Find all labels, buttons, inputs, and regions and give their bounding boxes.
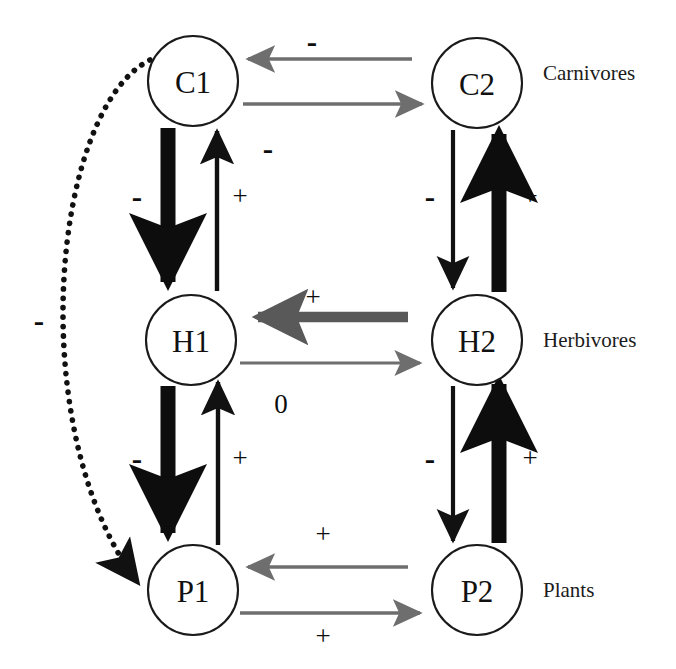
- sign-label-h2-h1: +: [305, 282, 320, 312]
- sign-label-c1-p1: -: [34, 303, 44, 338]
- sign-label-c2-c1: -: [307, 24, 317, 59]
- sign-label-p2-h2: +: [522, 443, 537, 473]
- trophic-label-herbivores: Herbivores: [543, 328, 636, 352]
- node-c2-label: C2: [459, 67, 495, 102]
- sign-label-h1-h2: 0: [274, 389, 288, 419]
- sign-label-h1-p1: -: [132, 441, 142, 476]
- sign-label-p1-h1: +: [232, 443, 247, 473]
- sign-label-p2-p1: +: [315, 519, 330, 549]
- node-p2-label: P2: [461, 574, 494, 609]
- node-h2-label: H2: [458, 324, 496, 359]
- edge-c1-p1: [63, 60, 150, 583]
- node-h1-label: H1: [172, 324, 210, 359]
- node-p1[interactable]: P1: [148, 545, 238, 635]
- trophic-label-plants: Plants: [543, 578, 594, 602]
- trophic-label-carnivores: Carnivores: [543, 61, 635, 85]
- node-c1[interactable]: C1: [148, 36, 238, 126]
- node-p1-label: P1: [177, 574, 210, 609]
- sign-label-h1-c1: +: [232, 181, 247, 211]
- trophic-diagram: C1 C2 H1 H2 P1 P2 Carnivores Herbivores …: [0, 0, 676, 669]
- node-c2[interactable]: C2: [432, 38, 522, 128]
- sign-label-c1-c2: -: [263, 131, 273, 166]
- sign-label-c2-h2: -: [425, 179, 435, 214]
- node-p2[interactable]: P2: [432, 545, 522, 635]
- sign-label-p1-p2: +: [315, 621, 330, 651]
- sign-label-h2-p2: -: [425, 441, 435, 476]
- diagram-canvas: C1 C2 H1 H2 P1 P2 Carnivores Herbivores …: [0, 0, 676, 669]
- sign-label-c1-h1: -: [132, 179, 142, 214]
- node-c1-label: C1: [175, 65, 211, 100]
- node-h2[interactable]: H2: [432, 295, 522, 385]
- node-h1[interactable]: H1: [146, 295, 236, 385]
- sign-label-h2-c2: +: [522, 181, 537, 211]
